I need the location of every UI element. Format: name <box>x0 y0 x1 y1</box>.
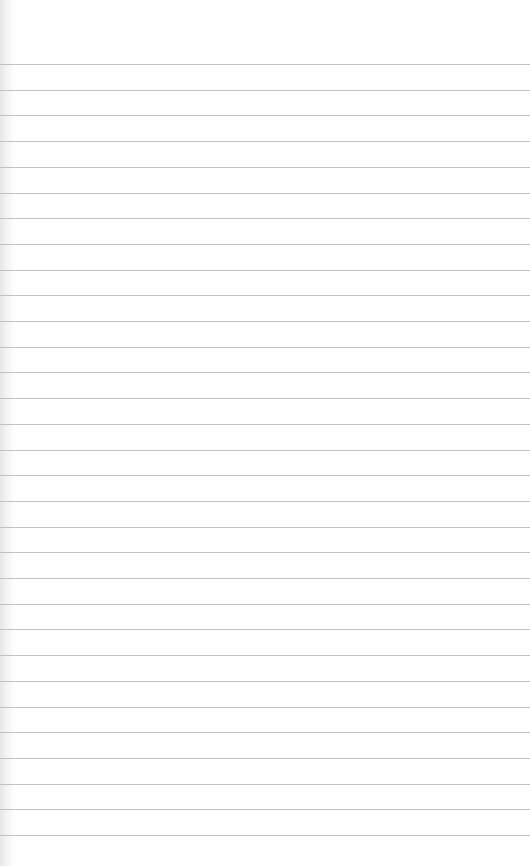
ruled-line <box>0 372 530 373</box>
ruled-line <box>0 270 530 271</box>
ruled-line <box>0 90 530 91</box>
ruled-line <box>0 475 530 476</box>
ruled-line <box>0 64 530 65</box>
ruled-line <box>0 295 530 296</box>
ruled-line <box>0 501 530 502</box>
ruled-line <box>0 578 530 579</box>
ruled-line <box>0 450 530 451</box>
ruled-line <box>0 321 530 322</box>
ruled-line <box>0 244 530 245</box>
ruled-line <box>0 604 530 605</box>
ruled-line <box>0 732 530 733</box>
ruled-line <box>0 707 530 708</box>
ruled-line <box>0 167 530 168</box>
left-edge-shadow <box>0 0 14 866</box>
ruled-line <box>0 347 530 348</box>
ruled-line <box>0 141 530 142</box>
ruled-line <box>0 398 530 399</box>
ruled-line <box>0 835 530 836</box>
ruled-line <box>0 681 530 682</box>
ruled-line <box>0 758 530 759</box>
ruled-line <box>0 809 530 810</box>
ruled-line <box>0 629 530 630</box>
ruled-line <box>0 784 530 785</box>
ruled-line <box>0 527 530 528</box>
ruled-line <box>0 424 530 425</box>
ruled-line <box>0 193 530 194</box>
ruled-line <box>0 552 530 553</box>
lined-paper-sheet <box>0 0 530 866</box>
ruled-line <box>0 655 530 656</box>
ruled-line <box>0 218 530 219</box>
ruled-line <box>0 115 530 116</box>
